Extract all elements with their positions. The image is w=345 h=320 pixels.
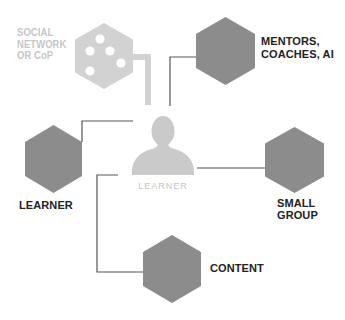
- connector-learner: [82, 121, 133, 142]
- social-network-label-line: SOCIAL: [17, 27, 66, 39]
- content-label-line: CONTENT: [210, 262, 264, 275]
- social-network-label-line: OR CoP: [17, 50, 66, 62]
- social-network-hexagon: [75, 23, 133, 89]
- connector-mentors: [170, 57, 196, 106]
- center-learner-label: LEARNER: [132, 181, 194, 191]
- mentors-label-line: MENTORS,: [261, 35, 334, 48]
- learner-label-line: LEARNER: [19, 199, 73, 212]
- learner-network-diagram: SOCIAL NETWORK OR CoP MENTORS, COACHES, …: [0, 0, 345, 320]
- small-group-label-line: SMALL: [277, 197, 318, 209]
- mentors-hexagon: [196, 17, 255, 85]
- small-group-label-line: GROUP: [277, 209, 318, 221]
- mentors-label: MENTORS, COACHES, AI: [261, 35, 334, 61]
- connector-social-network: [132, 57, 148, 105]
- learner-hexagon: [25, 125, 82, 193]
- social-network-label: SOCIAL NETWORK OR CoP: [17, 27, 66, 62]
- social-network-node: [75, 23, 133, 89]
- mentors-label-line: COACHES, AI: [261, 48, 334, 61]
- person-icon: [132, 116, 194, 175]
- small-group-label: SMALL GROUP: [277, 197, 318, 221]
- learner-label: LEARNER: [19, 199, 73, 212]
- content-hexagon: [143, 235, 201, 303]
- small-group-hexagon: [265, 127, 324, 193]
- content-label: CONTENT: [210, 262, 264, 275]
